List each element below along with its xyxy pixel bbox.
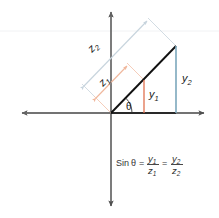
formula-function-name: Sin [116,158,129,168]
triangle-group [111,46,176,113]
formula-equals-2: = [162,158,167,168]
formula-ratio1-numerator: y1 [147,153,157,165]
formula-ratio2-numerator: y2 [171,153,181,165]
z2-extension-upper [148,18,176,46]
z1-extension-upper [127,63,144,80]
label-y2: y2 [181,72,193,87]
label-theta: θ [126,101,132,112]
z1-extension-lower [94,96,111,113]
diagram-canvas: z2 z1 y1 y2 θ Sin θ = y1 z1 = [0,0,219,218]
formula-group: Sin θ = y1 z1 = y2 z2 [116,153,183,177]
label-z2: z2 [84,39,102,57]
formula-ratio2-denominator: z2 [171,165,181,177]
formula-equals-1: = [139,158,144,168]
formula-angle-symbol: θ [131,158,136,168]
formula-ratio1-denominator: z1 [147,165,157,177]
label-y1: y1 [148,88,159,103]
trigonometry-diagram: z2 z1 y1 y2 θ Sin θ = y1 z1 = [0,0,219,218]
